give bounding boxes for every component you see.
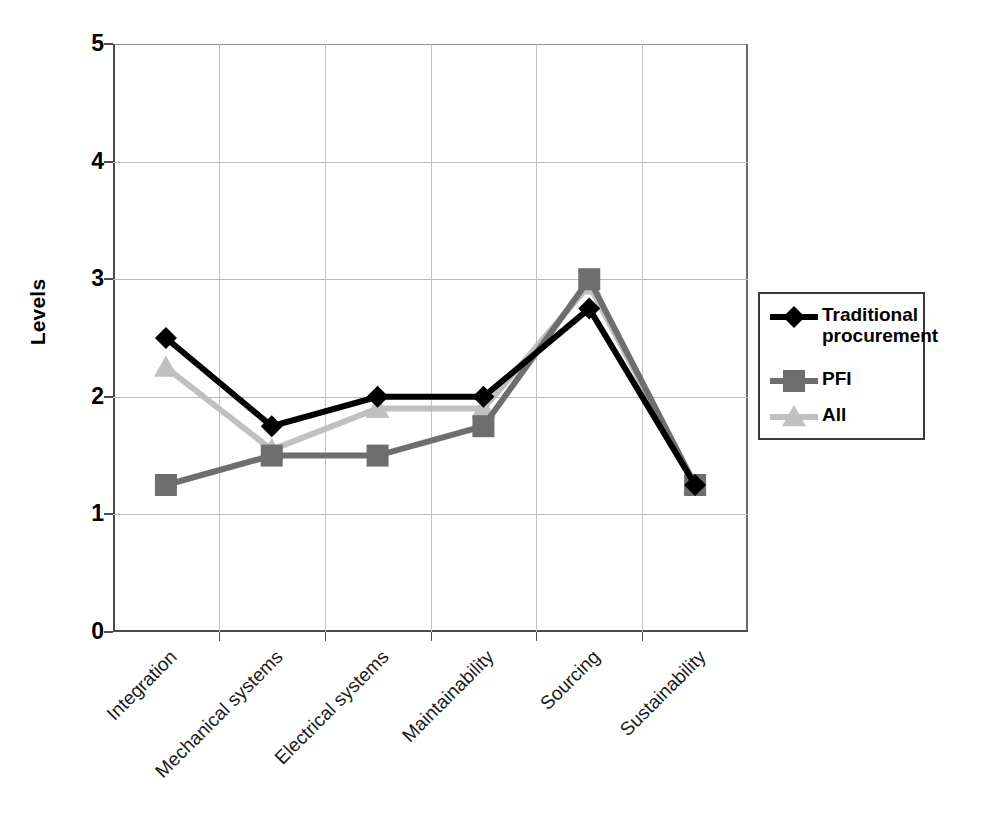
legend-label: Traditional procurement: [822, 304, 926, 347]
y-tick-label: 5: [64, 32, 104, 55]
x-axis-tick-labels: IntegrationMechanical systemsElectrical …: [113, 632, 748, 832]
data-point-marker: [261, 445, 283, 467]
line-chart: Levels 543210 IntegrationMechanical syst…: [0, 0, 992, 835]
legend-marker-diamond-icon: [768, 304, 820, 330]
series-lines: [113, 44, 748, 632]
series-all: [154, 273, 707, 494]
data-point-marker: [367, 445, 389, 467]
data-point-marker: [578, 268, 600, 290]
y-tick-label: 0: [64, 620, 104, 643]
legend-marker-triangle-icon: [768, 404, 820, 430]
plot-area: [113, 44, 748, 632]
legend-label: PFI: [822, 368, 852, 389]
y-tick-mark: [104, 43, 113, 45]
series-line: [166, 279, 695, 485]
y-tick-label: 4: [64, 150, 104, 173]
y-axis-title: Levels: [26, 252, 50, 372]
y-tick-mark: [104, 161, 113, 163]
y-tick-mark: [104, 631, 113, 633]
y-tick-label: 3: [64, 267, 104, 290]
y-tick-label: 2: [64, 385, 104, 408]
legend: Traditional procurementPFIAll: [758, 292, 925, 440]
data-point-marker: [155, 474, 177, 496]
legend-item: Traditional procurement: [768, 304, 926, 347]
y-axis-tick-labels: 543210: [58, 0, 104, 835]
y-tick-mark: [104, 396, 113, 398]
y-tick-label: 1: [64, 502, 104, 525]
series-line: [166, 285, 695, 485]
legend-label: All: [822, 404, 846, 425]
data-point-marker: [472, 415, 494, 437]
legend-item: All: [768, 404, 846, 430]
series-pfi: [155, 268, 706, 496]
y-tick-mark: [104, 513, 113, 515]
data-point-marker: [154, 355, 178, 376]
y-tick-mark: [104, 278, 113, 280]
legend-marker-square-icon: [768, 368, 820, 394]
data-point-marker: [367, 386, 389, 408]
legend-item: PFI: [768, 368, 852, 394]
